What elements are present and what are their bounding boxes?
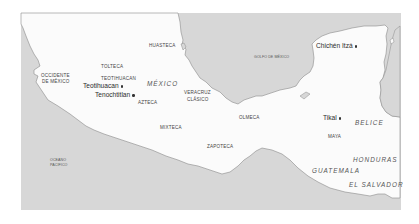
site-name: Chichén Itzá xyxy=(316,42,353,49)
site-teotihuacan: Teotihuacan xyxy=(83,83,123,90)
site-dot-icon xyxy=(121,85,124,88)
site-tikal: Tikal xyxy=(323,115,341,122)
site-name: Teotihuacan xyxy=(83,82,119,89)
label-huasteca: HUASTECA xyxy=(149,44,176,49)
site-tenochtitlan: Tenochtitlan xyxy=(95,92,135,99)
site-dot-icon xyxy=(355,45,358,48)
label-tolteca: TOLTECA xyxy=(101,65,123,70)
label-golfo-de-mexico: GOLFO DE MÉXICO xyxy=(254,56,289,60)
label-veracruz: VERACRUZ xyxy=(184,91,211,96)
site-name: Tenochtitlan xyxy=(95,91,130,98)
label-honduras: HONDURAS xyxy=(353,157,398,163)
label-de-mexico: DE MÉXICO xyxy=(42,80,70,85)
map-canvas xyxy=(0,0,419,224)
label-mixteca: MIXTECA xyxy=(160,126,182,131)
label-olmeca: OLMECA xyxy=(239,116,260,121)
site-chichen-itza: Chichén Itzá xyxy=(316,43,357,50)
label-maya: MAYA xyxy=(328,135,341,140)
label-mexico: MÉXICO xyxy=(147,81,178,87)
label-occidente: OCCIDENTE xyxy=(41,74,70,79)
site-name: Tikal xyxy=(323,114,337,121)
site-dot-icon xyxy=(339,117,342,120)
label-guatemala: GUATEMALA xyxy=(312,168,360,174)
site-dot-icon xyxy=(132,94,135,97)
label-pacifico: PACÍFICO xyxy=(50,164,68,168)
label-el-salvador: EL SALVADOR xyxy=(349,182,404,188)
label-belice: BELICE xyxy=(355,120,384,126)
label-zapoteca: ZAPOTECA xyxy=(207,145,233,150)
label-azteca: AZTECA xyxy=(138,101,157,106)
label-teotihuacan-region: TEOTIHUACAN xyxy=(101,77,136,82)
label-clasico: CLÁSICO xyxy=(187,98,209,103)
